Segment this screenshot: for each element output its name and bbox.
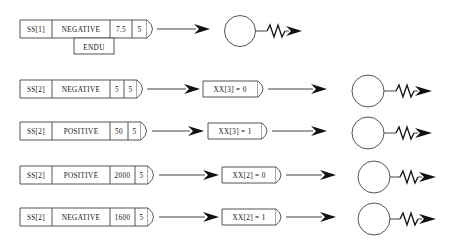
row-3-arrow-icon-1 xyxy=(188,126,204,136)
row-5-resistor-icon xyxy=(400,213,418,225)
diagram-svg: SS[1] NEGATIVE 7.5 5 ENDU SS[2 xyxy=(0,0,470,245)
row-1-cell-1: NEGATIVE xyxy=(62,26,101,34)
row-5-circle-node[interactable] xyxy=(358,203,390,235)
row-2-arrow-icon-1 xyxy=(184,84,200,94)
row-5-cell-1: NEGATIVE xyxy=(62,214,101,222)
row-1-group[interactable]: SS[1] NEGATIVE 7.5 5 ENDU xyxy=(20,16,302,55)
row-2-condition-label: XX[3] = 0 xyxy=(213,86,246,94)
row-5-arrow-icon-2 xyxy=(320,212,336,222)
row-1-round-cap xyxy=(147,20,153,38)
row-3-condition-cap xyxy=(262,123,267,139)
row-5-cell-0: SS[2] xyxy=(27,214,45,222)
row-5-condition-cap xyxy=(276,209,281,225)
row-2-cell-3: 5 xyxy=(129,86,133,94)
row-2-circle-node[interactable] xyxy=(352,75,384,107)
row-5-condition-label: XX[2] = 1 xyxy=(232,214,265,222)
row-2-group[interactable]: SS[2] NEGATIVE 5 5 XX[3] = 0 xyxy=(20,75,432,107)
diagram-canvas: SS[1] NEGATIVE 7.5 5 ENDU SS[2 xyxy=(0,0,470,245)
row-2-arrow-icon-2 xyxy=(311,84,327,94)
row-1-cell-0: SS[1] xyxy=(27,26,45,34)
row-4-cell-0: SS[2] xyxy=(27,172,45,180)
row-1-circle-node[interactable] xyxy=(225,16,256,47)
row-5-group[interactable]: SS[2] NEGATIVE 1600 5 XX[2] = 1 xyxy=(20,203,436,235)
row-1-arrow-icon-1 xyxy=(194,24,210,34)
row-3-group[interactable]: SS[2] POSITIVE 50 5 XX[3] = 1 xyxy=(20,117,432,149)
row-4-group[interactable]: SS[2] POSITIVE 2000 5 XX[2] = 0 xyxy=(20,161,436,193)
row-2-cell-2: 5 xyxy=(115,86,119,94)
row-4-cell-1: POSITIVE xyxy=(64,172,99,180)
row-3-circle-node[interactable] xyxy=(352,117,384,149)
row-4-resistor-icon xyxy=(400,171,418,183)
row-3-round-cap xyxy=(141,122,147,140)
row-5-cell-2: 1600 xyxy=(115,214,131,222)
row-5-cell-3: 5 xyxy=(140,214,144,222)
row-3-cell-3: 5 xyxy=(133,128,137,136)
row-4-arrow-icon-2 xyxy=(320,170,336,180)
row-3-cell-0: SS[2] xyxy=(27,128,45,136)
row-2-condition-cap xyxy=(258,81,263,97)
row-4-condition-cap xyxy=(276,167,281,183)
row-5-round-cap xyxy=(148,208,154,226)
row-3-cell-1: POSITIVE xyxy=(64,128,99,136)
row-3-arrow-icon-2 xyxy=(311,126,327,136)
row-2-resistor-icon xyxy=(396,85,414,97)
row-5-arrow-icon-1 xyxy=(203,212,219,222)
row-4-condition-label: XX[2] = 0 xyxy=(232,172,265,180)
row-3-cell-2: 50 xyxy=(115,128,123,136)
row-2-cell-0: SS[2] xyxy=(27,86,45,94)
row-4-cell-3: 5 xyxy=(140,172,144,180)
row-1-cell-3: 5 xyxy=(138,26,142,34)
row-4-cell-2: 2000 xyxy=(115,172,131,180)
row-1-cell-2: 7.5 xyxy=(116,26,126,34)
row-4-arrow-icon-1 xyxy=(203,170,219,180)
row-2-round-cap xyxy=(137,80,143,98)
row-2-cell-1: NEGATIVE xyxy=(62,86,101,94)
row-1-resistor-icon xyxy=(267,25,285,37)
row-3-condition-label: XX[3] = 1 xyxy=(218,128,251,136)
row-1-sub-box-label: ENDU xyxy=(83,44,105,52)
row-3-resistor-icon xyxy=(396,127,414,139)
row-4-round-cap xyxy=(148,166,154,184)
row-4-circle-node[interactable] xyxy=(358,161,390,193)
